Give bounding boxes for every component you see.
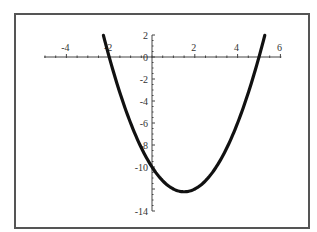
y-tick-label: 2 <box>143 30 148 41</box>
y-tick-label: -10 <box>135 162 148 173</box>
y-tick-label: -14 <box>135 206 148 217</box>
x-tick-label: 6 <box>277 42 282 53</box>
chart-canvas: -4-2246 20-2-4-6-8-10-14 <box>0 0 317 232</box>
y-tick-label: -2 <box>140 74 148 85</box>
x-axis: -4-2246 <box>44 42 282 58</box>
x-tick-label: 4 <box>234 42 239 53</box>
x-tick-label: -4 <box>61 42 69 53</box>
y-axis: 20-2-4-6-8-10-14 <box>135 30 155 217</box>
parabola-curve <box>103 35 264 191</box>
y-tick-label: -4 <box>140 96 148 107</box>
y-tick-label: -6 <box>140 118 148 129</box>
y-tick-label: 0 <box>143 52 148 63</box>
x-tick-label: 2 <box>191 42 196 53</box>
